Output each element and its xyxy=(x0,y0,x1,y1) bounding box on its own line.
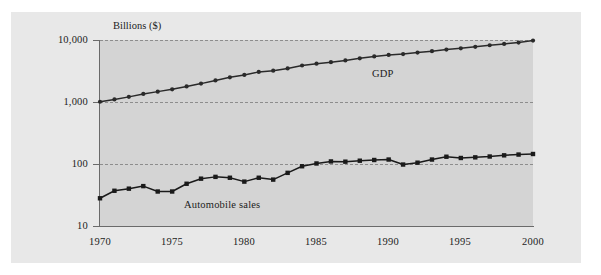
gdp-label: GDP xyxy=(372,68,394,79)
data-point-marker xyxy=(300,63,304,67)
automobile-sales-label: Automobile sales xyxy=(184,199,260,210)
data-point-marker xyxy=(170,87,174,91)
series-canvas xyxy=(0,0,601,275)
data-point-marker xyxy=(257,70,261,74)
data-point-marker xyxy=(271,69,275,73)
data-point-marker xyxy=(156,189,160,193)
data-point-marker xyxy=(98,100,102,104)
data-point-marker xyxy=(213,175,217,179)
data-point-marker xyxy=(502,42,506,46)
data-point-marker xyxy=(184,182,188,186)
data-point-marker xyxy=(170,189,174,193)
data-point-marker xyxy=(531,38,535,42)
series-line xyxy=(100,41,533,102)
data-point-marker xyxy=(386,157,390,161)
data-point-marker xyxy=(387,53,391,57)
data-point-marker xyxy=(242,73,246,77)
data-point-marker xyxy=(199,82,203,86)
data-point-marker xyxy=(213,78,217,82)
data-point-marker xyxy=(141,184,145,188)
data-point-marker xyxy=(488,154,492,158)
data-point-marker xyxy=(228,176,232,180)
data-point-marker xyxy=(314,62,318,66)
data-point-marker xyxy=(112,189,116,193)
data-point-marker xyxy=(329,60,333,64)
data-point-marker xyxy=(401,162,405,166)
data-point-marker xyxy=(372,54,376,58)
data-point-marker xyxy=(401,52,405,56)
data-point-marker xyxy=(430,49,434,53)
data-point-marker xyxy=(286,66,290,70)
data-point-marker xyxy=(415,160,419,164)
data-point-marker xyxy=(343,159,347,163)
series-gdp xyxy=(98,38,535,103)
series-automobile-sales xyxy=(98,152,535,201)
data-point-marker xyxy=(271,177,275,181)
data-point-marker xyxy=(329,159,333,163)
data-point-marker xyxy=(473,155,477,159)
data-point-marker xyxy=(343,58,347,62)
data-point-marker xyxy=(531,152,535,156)
data-point-marker xyxy=(285,171,289,175)
data-point-marker xyxy=(459,46,463,50)
chart-figure: 10,000 1,000 100 10 1970 1975 1980 1985 … xyxy=(0,0,601,275)
data-point-marker xyxy=(98,196,102,200)
data-point-marker xyxy=(516,40,520,44)
data-point-marker xyxy=(444,155,448,159)
data-point-marker xyxy=(242,179,246,183)
data-point-marker xyxy=(459,156,463,160)
data-point-marker xyxy=(473,45,477,49)
data-point-marker xyxy=(300,164,304,168)
data-point-marker xyxy=(127,95,131,99)
data-point-marker xyxy=(112,97,116,101)
data-point-marker xyxy=(156,90,160,94)
data-point-marker xyxy=(358,159,362,163)
series-line xyxy=(100,154,533,198)
data-point-marker xyxy=(488,43,492,47)
data-point-marker xyxy=(358,56,362,60)
data-point-marker xyxy=(430,157,434,161)
data-point-marker xyxy=(228,75,232,79)
data-point-marker xyxy=(502,153,506,157)
data-point-marker xyxy=(415,50,419,54)
data-point-marker xyxy=(257,176,261,180)
data-point-marker xyxy=(444,48,448,52)
data-point-marker xyxy=(127,186,131,190)
data-point-marker xyxy=(516,152,520,156)
data-point-marker xyxy=(141,92,145,96)
data-point-marker xyxy=(185,84,189,88)
data-point-marker xyxy=(199,176,203,180)
data-point-marker xyxy=(314,161,318,165)
data-point-marker xyxy=(372,158,376,162)
